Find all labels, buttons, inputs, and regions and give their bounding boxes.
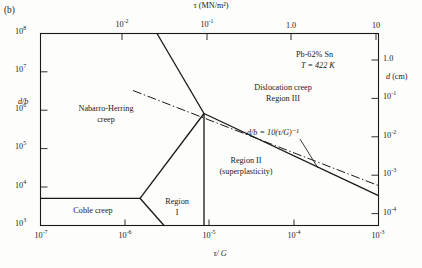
plot-canvas [0,0,422,268]
bottom-axis-tick-3: 10-4 [274,231,314,241]
left-axis-tick-5: 105 [15,142,26,152]
right-axis-label: d (cm) [386,72,408,82]
left-axis-tick-6: 106 [15,104,26,114]
left-axis-tick-4: 104 [15,181,26,191]
bottom-axis-tick-2: 10-5 [189,231,229,241]
region-label-nabarro-herring-line2: creep [52,115,160,125]
right-axis-tick-m4: 10-4 [383,208,396,218]
material-composition-label: Pb-62% Sn [296,50,333,60]
region-label-coble-creep: Coble creep [48,206,138,216]
right-axis-tick-m2: 10-2 [383,131,396,141]
left-axis-ticks [41,72,48,187]
left-axis-tick-3: 103 [15,219,26,229]
boundary-nh-dislocation [157,34,204,114]
region-label-nabarro-herring-line1: Nabarro-Herring [52,104,160,114]
region-label-region-i-line1: Region [154,197,200,207]
top-axis-tick-3: 10 [356,21,396,31]
bottom-axis-tick-1: 10-6 [105,231,145,241]
region-label-region-ii-line1: Region II [196,156,296,166]
bottom-axis-tick-4: 10-3 [358,231,398,241]
top-axis-label: τ (MN/m²) [0,1,422,11]
top-axis-tick-0: 10-2 [102,20,142,30]
bottom-axis-ticks [125,220,294,226]
deformation-mechanism-map-figure: (b) [0,0,422,268]
right-axis-tick-m1: 10-1 [383,92,396,102]
region-label-region-ii-line2: (superplasticity) [186,167,306,177]
boundary-nh-regioni [140,114,204,199]
equation-annotation: d/b = 10(τ/G)⁻¹ [247,128,299,138]
left-axis-tick-8: 108 [15,27,26,37]
region-label-dislocation-creep-line1: Dislocation creep [228,83,338,93]
region-label-dislocation-creep-line2: Region III [228,94,338,104]
bottom-axis-label: τ/ G [150,249,290,259]
top-axis-tick-1: 10-1 [187,20,227,30]
boundary-regionii-regioniii [204,114,379,196]
temperature-label: T = 422 K [301,61,335,71]
top-axis-tick-2: 1.0 [271,21,311,31]
left-axis-tick-7: 107 [15,65,26,75]
right-axis-tick-1p0: 1.0 [383,54,393,64]
bottom-axis-tick-0: 10-7 [21,231,61,241]
right-axis-tick-m3: 10-3 [383,169,396,179]
right-axis-ticks [372,60,379,214]
region-label-region-i-line2: I [154,208,200,218]
